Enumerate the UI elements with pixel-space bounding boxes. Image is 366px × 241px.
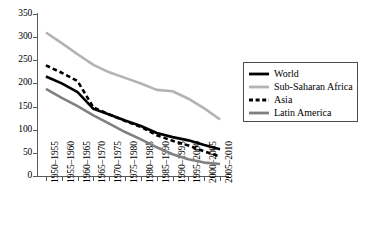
legend-item-world[interactable]: World bbox=[249, 67, 352, 80]
plot-area bbox=[38, 14, 228, 176]
series-line-latin-america bbox=[46, 89, 220, 164]
legend-item-asia[interactable]: Asia bbox=[249, 93, 352, 106]
legend-label: Latin America bbox=[274, 107, 331, 118]
series-line-sub-saharan-africa bbox=[46, 33, 220, 120]
legend-item-sub-saharan-africa[interactable]: Sub-Saharan Africa bbox=[249, 80, 352, 93]
chart-legend: WorldSub-Saharan AfricaAsiaLatin America bbox=[243, 62, 358, 122]
solid-black-line-swatch bbox=[249, 68, 269, 79]
chart-figure: 050100150200250300350 1950–19551955–1960… bbox=[0, 0, 366, 241]
solid-gray-line-swatch bbox=[249, 107, 269, 118]
legend-label: Asia bbox=[274, 94, 292, 105]
solid-lightgray-line-swatch bbox=[249, 81, 269, 92]
legend-item-latin-america[interactable]: Latin America bbox=[249, 106, 352, 119]
series-lines bbox=[38, 14, 228, 176]
series-line-world bbox=[46, 76, 220, 149]
legend-label: Sub-Saharan Africa bbox=[274, 81, 353, 92]
legend-label: World bbox=[274, 68, 299, 79]
dashed-black-line-swatch bbox=[249, 94, 269, 105]
